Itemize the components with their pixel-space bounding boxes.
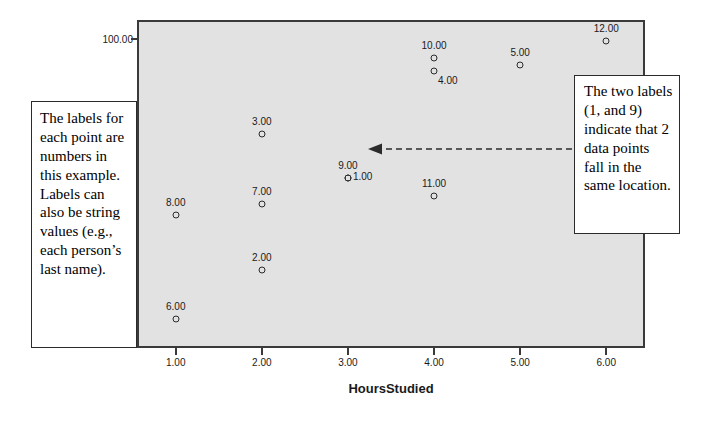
x-axis-tick-label: 1.00 (166, 357, 185, 368)
x-axis-tick-mark (261, 348, 263, 355)
x-axis-tick-label: 3.00 (338, 357, 357, 368)
plot-area (137, 20, 645, 348)
x-axis-tick-mark (433, 348, 435, 355)
data-point-label: 11.00 (422, 179, 446, 189)
data-point-marker (431, 55, 438, 62)
data-point-label: 2.00 (252, 253, 271, 263)
data-point-label: 9.00 (338, 161, 357, 171)
data-point-label: 8.00 (166, 198, 185, 208)
data-point-marker (172, 211, 179, 218)
x-axis-tick-mark (347, 348, 349, 355)
data-point-marker (431, 68, 438, 75)
data-point-label: 6.00 (166, 302, 185, 312)
x-axis-tick-label: 5.00 (510, 357, 529, 368)
data-point-marker (603, 38, 610, 45)
x-axis-tick-label: 4.00 (424, 357, 443, 368)
callout-left-text-box: The labels for each point are numbers in… (31, 101, 137, 348)
x-axis-tick-mark (175, 348, 177, 355)
x-axis-tick-mark (519, 348, 521, 355)
x-axis-tick-label: 6.00 (597, 357, 616, 368)
dashed-arrow-icon (366, 141, 578, 157)
y-axis-tick-mark (131, 38, 138, 40)
data-point-marker (172, 316, 179, 323)
x-axis-tick-label: 2.00 (252, 357, 271, 368)
y-axis-tick-label: 100.00 (0, 34, 137, 45)
data-point-label: 4.00 (438, 76, 457, 86)
data-point-label: 5.00 (510, 48, 529, 58)
data-point-marker (344, 175, 351, 182)
data-point-marker (258, 201, 265, 208)
data-point-label: 7.00 (252, 187, 271, 197)
data-point-label: 10.00 (422, 41, 447, 51)
callout-right-text-box: The two labels (1, and 9) indicate that … (574, 75, 680, 234)
data-point-label: 3.00 (252, 117, 271, 127)
data-point-marker (431, 192, 438, 199)
data-point-label: 1.00 (353, 172, 372, 182)
data-point-marker (517, 62, 524, 69)
scatterplot-figure: 100.0075.00 1.002.003.004.005.006.00 8.0… (0, 0, 707, 423)
data-point-marker (258, 131, 265, 138)
x-axis-tick-mark (605, 348, 607, 355)
data-point-label: 12.00 (594, 24, 619, 34)
x-axis-title: HoursStudied (137, 381, 645, 396)
data-point-marker (258, 266, 265, 273)
